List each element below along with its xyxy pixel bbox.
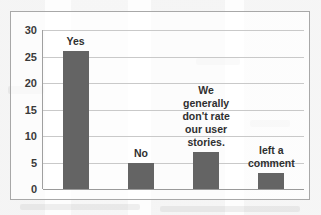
bar-group: Wegenerallydon't rateour userstories. (174, 30, 239, 189)
bar (63, 51, 89, 189)
y-axis-tick-label: 25 (25, 51, 37, 62)
bar-label-line: stories. (182, 136, 229, 149)
y-axis-tick-label: 20 (25, 78, 37, 89)
y-axis-tick-label: 15 (25, 104, 37, 115)
bar-chart: 302520151050 YesNoWegenerallydon't rateo… (10, 11, 310, 200)
y-axis-tick-label: 10 (25, 131, 37, 142)
bar-label-line: No (134, 147, 148, 160)
bar-label-line: Yes (67, 35, 85, 48)
bar-label: left acomment (248, 144, 295, 170)
scan-artifact (160, 206, 300, 212)
bar-label-line: our user (182, 123, 229, 136)
bar-group: Yes (43, 30, 108, 189)
bar (258, 173, 284, 189)
bar-label: No (134, 147, 148, 160)
bar-label-line: We (182, 84, 229, 97)
scan-artifact (20, 204, 140, 210)
bar (128, 163, 154, 190)
bar-group: No (108, 30, 173, 189)
bar-label: Wegenerallydon't rateour userstories. (182, 84, 229, 149)
plot-area: 302520151050 YesNoWegenerallydon't rateo… (42, 30, 304, 189)
bar-series: YesNoWegenerallydon't rateour userstorie… (43, 30, 304, 189)
bar-label-line: generally (182, 97, 229, 110)
bar (193, 152, 219, 189)
bar-label: Yes (67, 35, 85, 48)
y-axis-tick-label: 30 (25, 25, 37, 36)
gridline (43, 189, 304, 190)
bar-label-line: left a (248, 144, 295, 157)
y-axis-tick-label: 5 (31, 157, 37, 168)
y-axis-tick-label: 0 (31, 184, 37, 195)
bar-label-line: don't rate (182, 110, 229, 123)
bar-group: left acomment (239, 30, 304, 189)
bar-label-line: comment (248, 157, 295, 170)
